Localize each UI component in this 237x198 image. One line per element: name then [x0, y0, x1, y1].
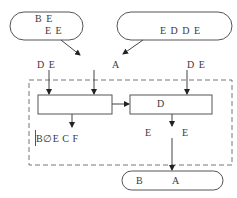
right-input-label: D E: [187, 60, 206, 70]
left-process-box: [38, 95, 112, 114]
bottom-oval-right-label: A: [172, 176, 180, 186]
right-box-label: D: [157, 99, 165, 109]
top-left-oval-line2: E E: [45, 26, 63, 36]
right-output-right-label: E: [182, 128, 189, 138]
top-left-oval-line1: B E: [35, 14, 53, 24]
left-output-label: B∅E C F: [36, 134, 79, 144]
top-right-oval-text: E D D E: [160, 26, 201, 36]
merge-label-a: A: [112, 60, 120, 70]
diagram-canvas: [0, 0, 237, 198]
right-process-box: [130, 95, 212, 114]
left-input-label: D E: [37, 60, 56, 70]
right-output-left-label: E: [145, 128, 152, 138]
dashed-boundary: [29, 80, 232, 165]
arrow-top-right-to-a: [123, 40, 143, 54]
arrow-top-left-to-a: [61, 40, 80, 55]
bottom-oval-left-label: B: [136, 176, 144, 186]
